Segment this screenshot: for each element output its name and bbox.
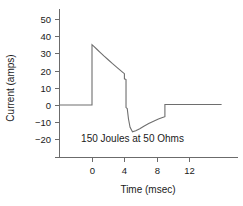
y-tick-label: −10 xyxy=(35,117,51,128)
current-vs-time-plot: −20−1001020304050 04812 150 Joules at 50… xyxy=(0,0,243,206)
x-tick-label: 4 xyxy=(122,165,127,176)
y-axis-title: Current (amps) xyxy=(5,54,16,121)
chart-annotation: 150 Joules at 50 Ohms xyxy=(81,133,184,144)
y-tick-label: 30 xyxy=(40,48,51,59)
y-axis-tick-marks xyxy=(55,20,60,158)
x-axis-tick-labels: 04812 xyxy=(90,165,195,176)
x-tick-label: 0 xyxy=(90,165,95,176)
x-tick-label: 12 xyxy=(184,165,195,176)
annotation-label: 150 Joules at 50 Ohms xyxy=(81,133,184,144)
y-tick-label: 20 xyxy=(40,66,51,77)
y-tick-label: 10 xyxy=(40,83,51,94)
chart-figure: −20−1001020304050 04812 150 Joules at 50… xyxy=(0,0,243,206)
x-axis-tick-marks xyxy=(93,158,190,163)
y-tick-label: 40 xyxy=(40,31,51,42)
y-tick-label: 50 xyxy=(40,14,51,25)
waveform-line xyxy=(60,45,222,132)
x-tick-label: 8 xyxy=(155,165,160,176)
y-axis-tick-labels: −20−1001020304050 xyxy=(35,14,51,145)
x-axis-title: Time (msec) xyxy=(120,184,175,195)
y-tick-label: 0 xyxy=(46,100,51,111)
y-tick-label: −20 xyxy=(35,134,51,145)
